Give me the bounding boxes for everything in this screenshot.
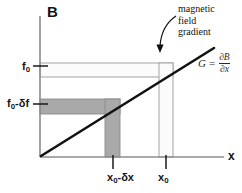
x-axis-tick-label-x0-minus-dx: x0-δx — [107, 172, 134, 185]
x-axis-tick-label-x0: x0 — [158, 172, 169, 185]
annotation-arrow — [160, 16, 176, 46]
gradient-formula: G = ∂B ∂x — [198, 53, 231, 75]
formula-denominator: ∂x — [219, 63, 230, 74]
formula-numerator: ∂B — [218, 53, 231, 63]
magnetic-field-gradient-figure: B f0 f0-δf x0-δx x0 x magnetic field gra… — [0, 0, 242, 193]
y-tick-f0df-rest: -δf — [15, 97, 29, 109]
panel-label: B — [47, 4, 58, 19]
annotation-line-1: magnetic — [178, 3, 215, 15]
formula-symbol: G — [198, 58, 206, 69]
annotation-line-2: field — [178, 15, 215, 27]
y-axis-tick-label-f0-minus-df: f0-δf — [7, 98, 29, 111]
annotation-line-3: gradient — [178, 26, 215, 38]
horizontal-band-f0 — [40, 63, 173, 77]
gradient-annotation-text: magnetic field gradient — [178, 3, 215, 38]
x-axis-title: x — [228, 150, 235, 162]
annotation-arrowhead-icon — [156, 45, 163, 53]
x-tick-x0-sub: 0 — [164, 176, 168, 185]
y-axis-tick-label-f0: f0 — [22, 61, 30, 74]
formula-fraction: ∂B ∂x — [218, 53, 231, 75]
y-tick-f0-sub: 0 — [26, 65, 30, 74]
formula-equals: = — [209, 58, 215, 69]
x-tick-x0dx-rest: -δx — [118, 171, 134, 183]
